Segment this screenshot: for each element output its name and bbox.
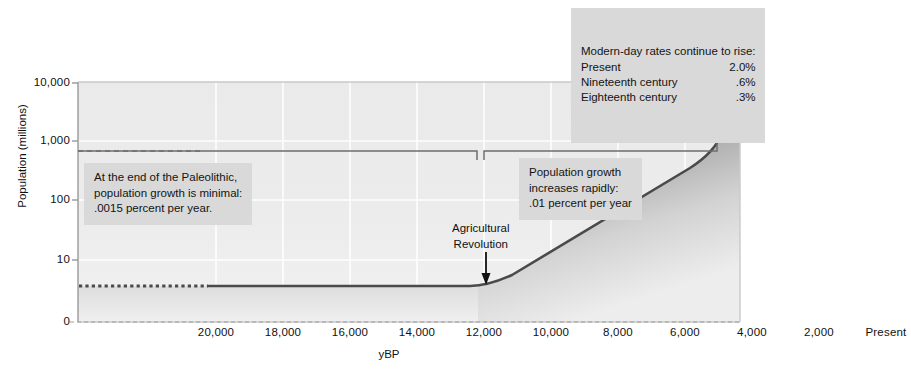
- callout-rapid-growth: Population growth increases rapidly: .01…: [519, 158, 642, 220]
- x-tick-18000: 18,000: [248, 326, 318, 338]
- y-axis-ticks: [72, 83, 78, 260]
- x-axis-title: yBP: [0, 348, 778, 360]
- modern-rates-label-eighteenth: Eighteenth century: [581, 90, 697, 105]
- x-tick-12000: 12,000: [449, 326, 519, 338]
- callout-paleolithic-growth: At the end of the Paleolithic, populatio…: [84, 163, 252, 225]
- x-tick-4000: 4,000: [717, 326, 787, 338]
- agricultural-revolution-label: Agricultural Revolution: [452, 221, 510, 252]
- y-tick-10: 10: [8, 253, 70, 265]
- callout-modern-rates: Modern-day rates continue to rise: Prese…: [571, 8, 765, 143]
- modern-rates-label-present: Present: [581, 60, 697, 75]
- y-axis-title: Population (millions): [16, 76, 28, 236]
- modern-rates-label-nineteenth: Nineteenth century: [581, 75, 697, 90]
- x-tick-present: Present: [851, 326, 911, 338]
- x-tick-6000: 6,000: [650, 326, 720, 338]
- x-tick-8000: 8,000: [583, 326, 653, 338]
- x-tick-16000: 16,000: [315, 326, 385, 338]
- area-fill-flat: [78, 286, 478, 322]
- y-tick-0: 0: [8, 315, 70, 327]
- modern-rates-value-present: 2.0%: [697, 60, 755, 75]
- x-tick-14000: 14,000: [382, 326, 452, 338]
- x-tick-10000: 10,000: [516, 326, 586, 338]
- modern-rates-heading: Modern-day rates continue to rise:: [581, 44, 756, 59]
- x-tick-20000: 20,000: [181, 326, 251, 338]
- modern-rates-value-eighteenth: .3%: [697, 90, 755, 105]
- modern-rates-value-nineteenth: .6%: [697, 75, 755, 90]
- x-tick-2000: 2,000: [784, 326, 854, 338]
